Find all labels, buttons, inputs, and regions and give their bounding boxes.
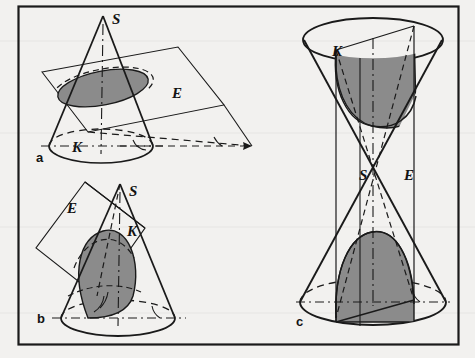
figure-canvas: S K E a: [0, 0, 475, 358]
panel-b-caption: b: [37, 311, 45, 326]
panel-c-caption: c: [296, 314, 303, 329]
panel-a-label-apex: S: [112, 11, 120, 27]
panel-c-label-plane: E: [403, 167, 414, 183]
panel-b-label-cone: K: [126, 223, 138, 239]
panel-a-label-plane: E: [171, 85, 182, 101]
panel-a-label-cone: K: [71, 139, 83, 155]
panel-c-label-apex: S: [359, 167, 367, 183]
conic-sections-figure: S K E a: [0, 0, 475, 358]
panel-c-label-cone: K: [331, 43, 343, 59]
panel-b-label-apex: S: [129, 183, 137, 199]
panel-a-caption: a: [36, 150, 44, 165]
panel-b-label-plane: E: [66, 200, 77, 216]
